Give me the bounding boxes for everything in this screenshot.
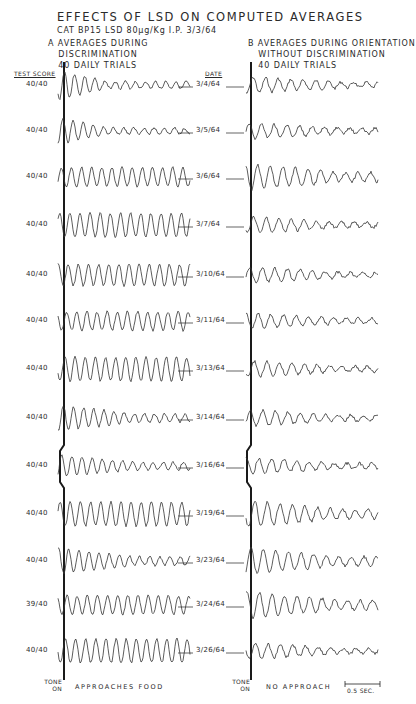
tone-on-marker-a: TONE ON bbox=[36, 678, 62, 692]
tone-label: TONE bbox=[44, 678, 62, 685]
scale-bar-label: 0.5 SEC. bbox=[347, 687, 375, 694]
tone-label: TONE bbox=[232, 678, 250, 685]
panel-b-footer: NO APPROACH bbox=[266, 683, 331, 691]
on-label: ON bbox=[240, 685, 250, 692]
tone-on-marker-b: TONE ON bbox=[224, 678, 250, 692]
panel-a-footer: APPROACHES FOOD bbox=[75, 683, 164, 691]
on-label: ON bbox=[52, 685, 62, 692]
